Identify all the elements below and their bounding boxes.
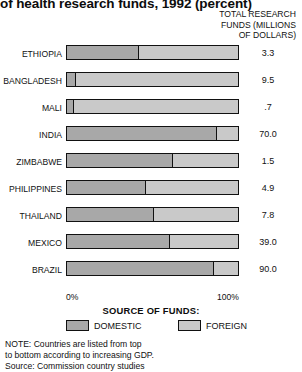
bar-row: THAILAND7.8 [0,206,302,233]
bar-row-label: ETHIOPIA [0,48,62,60]
footnote-line1: NOTE: Countries are listed from top [5,339,295,350]
bar-track [66,234,239,249]
value-column-header-line2: FUNDS (MILLIONS [192,20,296,31]
bar-track [66,72,239,87]
bar-segment-domestic [67,181,146,194]
bar-row-label: MEXICO [0,237,62,249]
bar-row-value: 3.3 [243,47,293,59]
value-column-header-line1: TOTAL RESEARCH [192,9,296,20]
bar-row: INDIA70.0 [0,125,302,152]
bar-track [66,45,239,60]
value-column-header-line3: OF DOLLARS) [192,30,296,41]
legend-label-foreign: FOREIGN [206,321,247,331]
legend-title: SOURCE OF FUNDS: [0,305,302,316]
legend-swatch-domestic-icon [66,320,89,331]
bar-row: PHILIPPINES4.9 [0,179,302,206]
axis-tick-max: 100% [217,292,239,303]
bar-track [66,207,239,222]
bar-track [66,180,239,195]
bar-row-label: ZIMBABWE [0,156,62,168]
bar-track [66,261,239,276]
bar-segment-domestic [67,127,217,140]
bar-row-label: MALI [0,102,62,114]
bar-segment-domestic [67,208,154,221]
bar-row-label: BRAZIL [0,264,62,276]
bar-row-value: 70.0 [243,128,293,140]
bar-segment-domestic [67,154,173,167]
bar-row-value: 39.0 [243,236,293,248]
bar-track [66,153,239,168]
footnote-line3: Source: Commission country studies [5,361,295,372]
bar-row-label: THAILAND [0,210,62,222]
value-column-header: TOTAL RESEARCH FUNDS (MILLIONS OF DOLLAR… [192,9,296,41]
bar-row-value: 7.8 [243,209,293,221]
bar-segment-domestic [67,100,74,113]
footnote-line2: to bottom according to increasing GDP. [5,350,295,361]
bar-row: ETHIOPIA3.3 [0,44,302,71]
bar-segment-domestic [67,73,76,86]
bar-row-value: 4.9 [243,182,293,194]
bar-segment-domestic [67,262,214,275]
bar-row-value: 9.5 [243,74,293,86]
axis-tick-min: 0% [66,292,78,303]
bar-segment-domestic [67,46,139,59]
legend-item-domestic: DOMESTIC [66,320,142,331]
bar-row: BANGLADESH9.5 [0,71,302,98]
bar-row: BRAZIL90.0 [0,260,302,287]
legend-swatch-foreign-icon [178,320,201,331]
bar-row-label: PHILIPPINES [0,183,62,195]
bar-row: ZIMBABWE1.5 [0,152,302,179]
legend-item-foreign: FOREIGN [178,320,247,331]
bar-rows: ETHIOPIA3.3BANGLADESH9.5MALI.7INDIA70.0Z… [0,44,302,287]
bar-row-label: INDIA [0,129,62,141]
bar-row: MALI.7 [0,98,302,125]
x-axis: 0% 100% [66,292,239,304]
bar-row-value: .7 [243,101,293,113]
bar-row: MEXICO39.0 [0,233,302,260]
bar-track [66,126,239,141]
bar-row-value: 1.5 [243,155,293,167]
legend-label-domestic: DOMESTIC [94,321,142,331]
bar-row-label: BANGLADESH [0,75,62,87]
bar-track [66,99,239,114]
footnote: NOTE: Countries are listed from top to b… [5,339,295,371]
legend: DOMESTIC FOREIGN [66,320,246,334]
bar-segment-domestic [67,235,170,248]
bar-row-value: 90.0 [243,263,293,275]
